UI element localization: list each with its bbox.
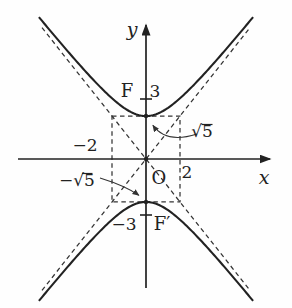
x-axis-label: x xyxy=(259,166,270,188)
focus-top-label: F xyxy=(121,80,134,101)
focus-bottom-label: F′ xyxy=(154,213,171,234)
x-positive-label: 2 xyxy=(182,162,193,182)
origin-label: O xyxy=(152,167,167,188)
x-negative-label: −2 xyxy=(72,135,97,155)
figure-canvas: y x O F 3 −3 F′ −2 2 √5 −√5 xyxy=(0,0,292,308)
y-axis-label: y xyxy=(126,18,138,40)
origin-dot xyxy=(144,157,148,161)
focus-bottom-value: −3 xyxy=(111,214,136,234)
vertex-dot-bottom xyxy=(144,200,148,204)
vertex-dot-top xyxy=(144,114,148,118)
focus-top-value: 3 xyxy=(150,81,161,101)
hyperbola-figure: y x O F 3 −3 F′ −2 2 √5 −√5 xyxy=(0,0,292,308)
annotation-arrow-to-bottom-vertex xyxy=(100,178,139,195)
